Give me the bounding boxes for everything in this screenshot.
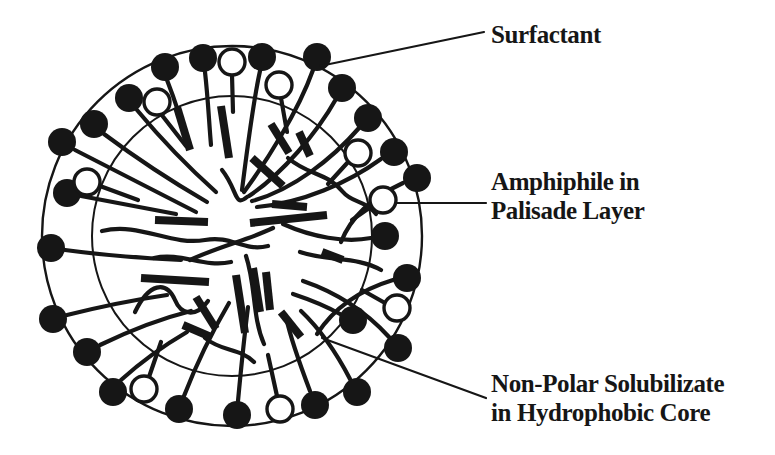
label-solubilizate: Non-Polar Solubilizate in Hydrophobic Co… <box>491 369 724 427</box>
label-surfactant: Surfactant <box>491 20 601 49</box>
label-solubilizate-line1: Non-Polar Solubilizate <box>491 369 724 398</box>
label-surfactant-text: Surfactant <box>491 20 601 49</box>
figure-canvas: Surfactant Amphiphile in Palisade Layer … <box>0 0 775 455</box>
label-amphiphile: Amphiphile in Palisade Layer <box>491 167 644 225</box>
label-amphiphile-line2: Palisade Layer <box>491 196 644 225</box>
label-solubilizate-line2: in Hydrophobic Core <box>491 398 724 427</box>
label-amphiphile-line1: Amphiphile in <box>491 167 644 196</box>
